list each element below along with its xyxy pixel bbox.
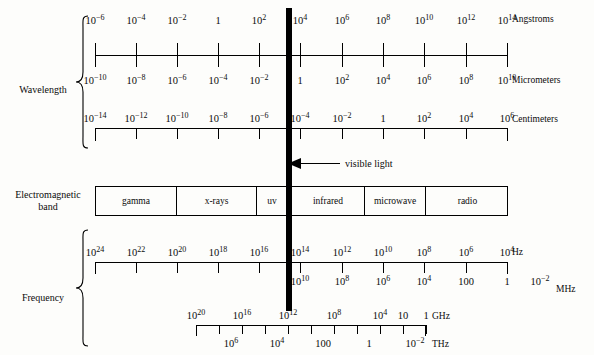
ghz-tick-label: 10 [398, 311, 409, 322]
centimeters-tick-label: 10−2 [332, 114, 351, 125]
ghz-tick-label: 1 [423, 311, 428, 322]
frequency-group-label: Frequency [8, 292, 78, 304]
axis-tick [136, 262, 137, 273]
axis-tick [259, 128, 260, 139]
axis-tick [219, 325, 220, 334]
axis-tick [426, 325, 427, 334]
axis-tick [466, 128, 467, 139]
mhz-tick-label: 104 [417, 277, 432, 288]
ghz-tick-label: 104 [373, 311, 388, 322]
hz-tick-label: 1024 [86, 248, 105, 259]
hz-tick-label: 1020 [168, 248, 187, 259]
angstroms-tick-label: 108 [376, 16, 391, 27]
centimeters-tick-label: 10−10 [165, 114, 188, 125]
centimeters-tick-label: 10−6 [249, 114, 268, 125]
mhz-tick-label: 1010 [291, 277, 310, 288]
axis-tick [177, 128, 178, 139]
band-cell-radio[interactable]: radio [426, 187, 509, 215]
unit-micrometers: Micrometers [512, 76, 561, 86]
axis-tick [380, 325, 381, 334]
angstroms-tick-label: 106 [335, 16, 350, 27]
axis-tick [424, 43, 425, 67]
unit-hz: Hz [512, 248, 523, 258]
axis-tick [177, 43, 178, 67]
axis-tick [95, 262, 96, 273]
centimeters-tick-label: 10−8 [208, 114, 227, 125]
unit-angstroms: Angstroms [512, 15, 554, 25]
mhz-tick-label: 1 [504, 277, 509, 288]
band-label-uv: uv [267, 196, 277, 206]
axis-tick [259, 43, 260, 67]
thz-tick-label: 1 [366, 339, 371, 350]
ghz-tick-label: 108 [327, 311, 342, 322]
axis-tick [334, 325, 335, 334]
angstroms-tick-label: 102 [252, 16, 267, 27]
band-label-line1: Electromagnetic [15, 189, 81, 200]
band-cell-gamma[interactable]: gamma [96, 187, 177, 215]
axis-tick [311, 325, 312, 334]
axis-tick [342, 43, 343, 67]
centimeters-axis-cap-right [507, 128, 508, 141]
mhz-tick-label: 10−2 [530, 277, 549, 288]
axis-tick [136, 43, 137, 67]
axis-tick [424, 128, 425, 139]
thz-tick-label: 100 [315, 339, 331, 350]
angstroms-tick-label: 1012 [457, 16, 476, 27]
angstroms-tick-label: 1 [215, 16, 220, 27]
electromagnetic-spectrum-diagram: Wavelength 10−610−410−211021041061081010… [0, 0, 594, 355]
axis-tick [288, 325, 289, 334]
axis-tick [300, 128, 301, 139]
frequency-brace [74, 228, 90, 348]
axis-tick [507, 43, 508, 67]
wavelength-group-label: Wavelength [8, 84, 78, 96]
band-label-infrared: infrared [313, 196, 343, 206]
band-label-gamma: gamma [122, 196, 150, 206]
electromagnetic-band-box: gamma x-rays uv infrared microwave radio [95, 186, 508, 216]
ghz-tick-label: 1016 [233, 311, 252, 322]
centimeters-tick-label: 104 [459, 114, 474, 125]
micrometers-tick-label: 10−2 [249, 76, 268, 87]
axis-tick [259, 262, 260, 273]
centimeters-tick-label: 10−12 [124, 114, 147, 125]
axis-tick [300, 43, 301, 67]
hz-tick-label: 1018 [209, 248, 228, 259]
axis-tick [466, 262, 467, 273]
axis-tick [424, 262, 425, 273]
axis-tick [136, 128, 137, 139]
unit-ghz: GHz [432, 312, 450, 322]
ghz-tick-label: 1020 [187, 311, 206, 322]
unit-thz: THz [432, 340, 449, 350]
axis-tick [357, 325, 358, 334]
axis-tick [300, 262, 301, 273]
axis-tick [383, 128, 384, 139]
axis-tick [342, 262, 343, 273]
angstroms-tick-label: 10−4 [126, 16, 145, 27]
micrometers-tick-label: 10−10 [83, 76, 106, 87]
micrometers-tick-label: 106 [417, 76, 432, 87]
hz-tick-label: 106 [459, 248, 474, 259]
axis-tick [342, 128, 343, 139]
centimeters-tick-label: 102 [417, 114, 432, 125]
thz-tick-label: 10−2 [405, 339, 424, 350]
angstroms-tick-label: 1010 [415, 16, 434, 27]
micrometers-tick-label: 1 [297, 76, 302, 87]
axis-tick [265, 325, 266, 334]
hz-tick-label: 1016 [250, 248, 269, 259]
band-cell-x-rays[interactable]: x-rays [177, 187, 257, 215]
visible-light-label: visible light [345, 159, 393, 169]
band-cell-uv[interactable]: uv [257, 187, 288, 215]
unit-mhz: MHz [556, 285, 576, 295]
mhz-tick-label: 106 [376, 277, 391, 288]
axis-tick [196, 325, 197, 334]
band-cell-infrared[interactable]: infrared [292, 187, 365, 215]
thz-tick-label: 106 [224, 339, 239, 350]
wavelength-axis-angstroms-micrometers [95, 55, 508, 56]
band-cell-microwave[interactable]: microwave [365, 187, 426, 215]
axis-tick [507, 262, 508, 273]
centimeters-tick-label: 1 [380, 114, 385, 125]
angstroms-tick-label: 10−6 [85, 16, 104, 27]
wavelength-axis-centimeters [95, 128, 508, 129]
hz-tick-label: 1010 [374, 248, 393, 259]
thz-tick-label: 104 [270, 339, 285, 350]
micrometers-tick-label: 10−8 [126, 76, 145, 87]
